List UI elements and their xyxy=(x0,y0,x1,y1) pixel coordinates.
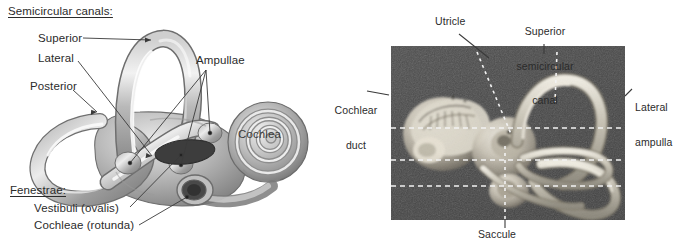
label-superior-line2: semicircular xyxy=(504,61,586,73)
label-lateral-canal: Lateral xyxy=(38,52,74,65)
label-ampullae: Ampullae xyxy=(196,54,245,67)
label-cochlea: Cochlea xyxy=(238,128,281,141)
left-illustration-panel: Semicircular canals: Superior Lateral Po… xyxy=(0,0,339,247)
label-cochlear-duct: Cochlear duct xyxy=(334,82,378,174)
label-lateral-amp-line1: Lateral xyxy=(635,102,672,114)
label-fenestra-cochleae: Cochleae (rotunda) xyxy=(34,219,134,232)
leader-lateral-ampulla xyxy=(625,89,632,96)
fenestra-cochleae-marker xyxy=(177,175,213,205)
leader-superior xyxy=(83,38,151,40)
label-superior-semicircular-canal: Superior semicircular canal xyxy=(504,3,586,130)
label-saccule: Saccule xyxy=(478,229,516,241)
label-posterior-canal: Posterior xyxy=(30,80,77,93)
label-lateral-ampulla: Lateral ampulla xyxy=(635,79,672,171)
label-superior-line3: canal xyxy=(504,95,586,107)
label-lateral-amp-line2: ampulla xyxy=(635,137,672,149)
anatomy-figure: Semicircular canals: Superior Lateral Po… xyxy=(0,0,678,247)
label-superior-line1: Superior xyxy=(504,26,586,38)
fenestrae-heading: Fenestrae: xyxy=(10,184,66,197)
label-utricle: Utricle xyxy=(435,16,465,28)
semicircular-canals-heading: Semicircular canals: xyxy=(8,5,113,18)
label-superior-canal: Superior xyxy=(38,32,82,45)
right-photograph-panel: Utricle Superior semicircular canal Coch… xyxy=(339,0,678,247)
label-fenestra-vestibuli: Vestibuli (ovalis) xyxy=(34,202,119,215)
left-leader-lines xyxy=(73,37,212,225)
fenestra-vestibuli-marker xyxy=(154,137,216,167)
label-cochlear-line1: Cochlear xyxy=(334,105,378,117)
label-cochlear-line2: duct xyxy=(334,140,378,152)
